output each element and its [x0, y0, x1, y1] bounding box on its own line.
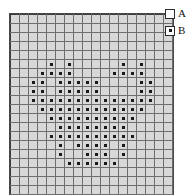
grid-cell-empty[interactable]	[101, 60, 110, 69]
grid-cell-marked[interactable]	[74, 96, 83, 105]
grid-cell-empty[interactable]	[146, 42, 155, 51]
grid-cell-empty[interactable]	[74, 42, 83, 51]
grid-cell-empty[interactable]	[11, 69, 20, 78]
grid-cell-empty[interactable]	[110, 186, 119, 195]
grid-cell-empty[interactable]	[20, 42, 29, 51]
grid-cell-marked[interactable]	[74, 141, 83, 150]
grid-cell-empty[interactable]	[20, 15, 29, 24]
grid-cell-empty[interactable]	[101, 87, 110, 96]
grid-cell-marked[interactable]	[92, 105, 101, 114]
grid-cell-empty[interactable]	[146, 132, 155, 141]
grid-cell-marked[interactable]	[83, 141, 92, 150]
grid-cell-empty[interactable]	[137, 24, 146, 33]
grid-cell-marked[interactable]	[110, 96, 119, 105]
grid-cell-marked[interactable]	[47, 105, 56, 114]
pattern-grid[interactable]	[9, 13, 174, 195]
grid-cell-empty[interactable]	[101, 51, 110, 60]
grid-cell-marked[interactable]	[47, 69, 56, 78]
grid-cell-empty[interactable]	[38, 150, 47, 159]
grid-cell-empty[interactable]	[119, 159, 128, 168]
grid-cell-empty[interactable]	[92, 60, 101, 69]
grid-cell-marked[interactable]	[65, 105, 74, 114]
grid-cell-marked[interactable]	[29, 96, 38, 105]
grid-cell-empty[interactable]	[128, 168, 137, 177]
grid-cell-empty[interactable]	[110, 60, 119, 69]
grid-cell-marked[interactable]	[47, 132, 56, 141]
grid-cell-empty[interactable]	[92, 15, 101, 24]
grid-cell-marked[interactable]	[56, 96, 65, 105]
grid-cell-empty[interactable]	[11, 123, 20, 132]
grid-cell-empty[interactable]	[47, 159, 56, 168]
grid-cell-empty[interactable]	[65, 177, 74, 186]
grid-cell-empty[interactable]	[38, 33, 47, 42]
grid-cell-marked[interactable]	[110, 114, 119, 123]
grid-cell-empty[interactable]	[128, 177, 137, 186]
grid-cell-empty[interactable]	[65, 15, 74, 24]
grid-cell-empty[interactable]	[83, 51, 92, 60]
grid-cell-empty[interactable]	[83, 42, 92, 51]
grid-cell-empty[interactable]	[128, 78, 137, 87]
grid-cell-empty[interactable]	[56, 33, 65, 42]
grid-cell-empty[interactable]	[74, 168, 83, 177]
grid-cell-empty[interactable]	[38, 114, 47, 123]
grid-cell-marked[interactable]	[110, 123, 119, 132]
grid-cell-marked[interactable]	[47, 60, 56, 69]
grid-cell-empty[interactable]	[155, 87, 164, 96]
grid-cell-marked[interactable]	[137, 78, 146, 87]
grid-cell-empty[interactable]	[47, 78, 56, 87]
grid-cell-empty[interactable]	[29, 42, 38, 51]
grid-cell-empty[interactable]	[146, 33, 155, 42]
grid-cell-empty[interactable]	[83, 33, 92, 42]
grid-cell-empty[interactable]	[146, 150, 155, 159]
grid-cell-empty[interactable]	[47, 33, 56, 42]
grid-cell-marked[interactable]	[56, 105, 65, 114]
grid-cell-empty[interactable]	[128, 159, 137, 168]
legend-item-a[interactable]: A	[165, 7, 191, 20]
grid-cell-marked[interactable]	[101, 105, 110, 114]
grid-cell-empty[interactable]	[20, 150, 29, 159]
grid-cell-empty[interactable]	[92, 168, 101, 177]
grid-cell-empty[interactable]	[74, 186, 83, 195]
grid-cell-empty[interactable]	[65, 24, 74, 33]
grid-cell-empty[interactable]	[110, 168, 119, 177]
grid-cell-marked[interactable]	[74, 159, 83, 168]
grid-cell-empty[interactable]	[92, 177, 101, 186]
grid-cell-marked[interactable]	[92, 78, 101, 87]
grid-cell-empty[interactable]	[20, 60, 29, 69]
grid-cell-empty[interactable]	[146, 114, 155, 123]
grid-cell-marked[interactable]	[65, 123, 74, 132]
grid-cell-empty[interactable]	[110, 51, 119, 60]
grid-cell-marked[interactable]	[101, 141, 110, 150]
grid-cell-empty[interactable]	[74, 177, 83, 186]
grid-cell-empty[interactable]	[110, 24, 119, 33]
grid-cell-empty[interactable]	[47, 141, 56, 150]
grid-cell-marked[interactable]	[101, 132, 110, 141]
grid-cell-empty[interactable]	[146, 186, 155, 195]
grid-cell-empty[interactable]	[119, 51, 128, 60]
grid-cell-empty[interactable]	[146, 177, 155, 186]
grid-cell-empty[interactable]	[155, 42, 164, 51]
grid-cell-empty[interactable]	[56, 186, 65, 195]
grid-cell-empty[interactable]	[155, 168, 164, 177]
grid-cell-marked[interactable]	[119, 141, 128, 150]
grid-cell-marked[interactable]	[74, 105, 83, 114]
grid-cell-empty[interactable]	[11, 168, 20, 177]
grid-cell-empty[interactable]	[47, 123, 56, 132]
grid-cell-empty[interactable]	[38, 132, 47, 141]
grid-cell-empty[interactable]	[155, 33, 164, 42]
grid-cell-empty[interactable]	[110, 177, 119, 186]
grid-cell-empty[interactable]	[83, 177, 92, 186]
grid-cell-empty[interactable]	[47, 186, 56, 195]
grid-cell-marked[interactable]	[38, 87, 47, 96]
grid-cell-empty[interactable]	[29, 51, 38, 60]
grid-cell-marked[interactable]	[83, 123, 92, 132]
grid-cell-marked[interactable]	[74, 132, 83, 141]
grid-cell-empty[interactable]	[137, 132, 146, 141]
grid-cell-empty[interactable]	[119, 78, 128, 87]
grid-cell-empty[interactable]	[164, 114, 173, 123]
grid-cell-empty[interactable]	[92, 42, 101, 51]
grid-cell-empty[interactable]	[83, 69, 92, 78]
grid-cell-empty[interactable]	[20, 33, 29, 42]
grid-cell-empty[interactable]	[137, 33, 146, 42]
grid-cell-marked[interactable]	[92, 123, 101, 132]
